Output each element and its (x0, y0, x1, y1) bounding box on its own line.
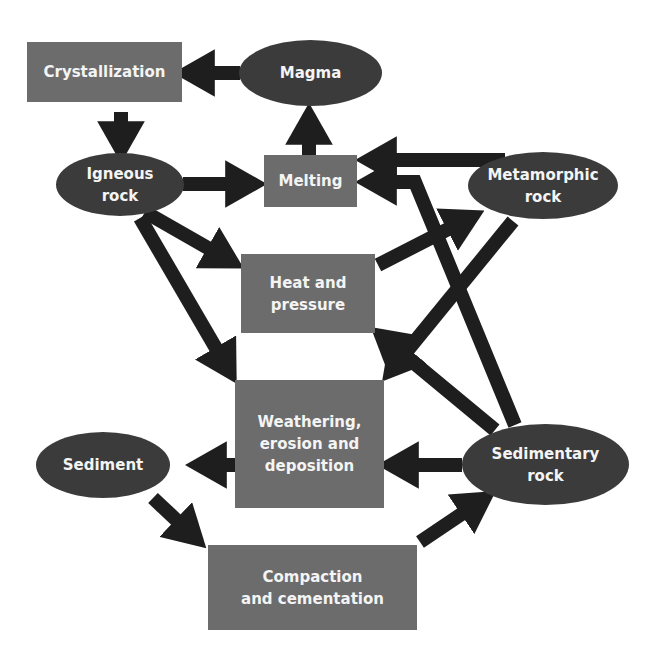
node-label: Compaction and cementation (241, 566, 384, 610)
node-sedimentary-rock: Sedimentary rock (462, 424, 629, 505)
node-weathering-erosion-deposition: Weathering, erosion and deposition (235, 380, 384, 508)
node-label: Weathering, erosion and deposition (258, 411, 362, 477)
node-label: Metamorphic rock (487, 164, 598, 208)
node-label: Melting (279, 170, 343, 192)
node-heat-and-pressure: Heat and pressure (241, 254, 375, 333)
node-label: Heat and pressure (270, 272, 347, 316)
arrow-compaction-to-sedimentary (420, 505, 475, 542)
node-metamorphic-rock: Metamorphic rock (468, 152, 618, 219)
node-label: Sediment (63, 454, 144, 476)
node-label: Igneous rock (86, 163, 153, 207)
arrow-sediment-to-compaction (153, 498, 188, 531)
node-crystallization: Crystallization (27, 42, 182, 102)
node-igneous-rock: Igneous rock (56, 153, 184, 216)
node-compaction-and-cementation: Compaction and cementation (208, 545, 417, 630)
node-melting: Melting (264, 155, 357, 207)
node-label: Crystallization (44, 61, 166, 83)
node-magma: Magma (239, 40, 382, 106)
node-label: Sedimentary rock (492, 443, 600, 487)
node-label: Magma (280, 62, 342, 84)
node-sediment: Sediment (36, 432, 170, 498)
